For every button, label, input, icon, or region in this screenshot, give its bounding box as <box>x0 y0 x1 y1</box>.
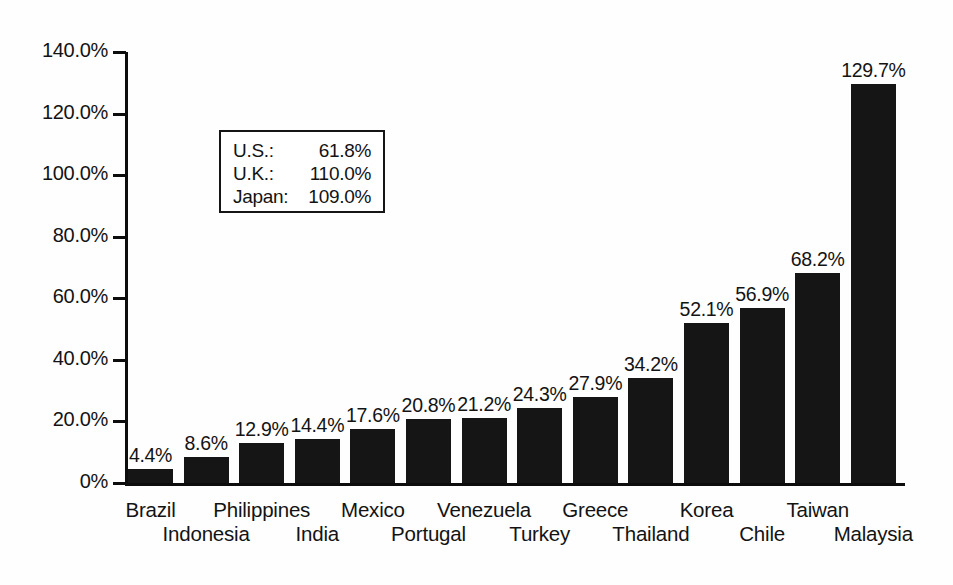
y-axis-tick-label: 120.0% <box>8 101 108 124</box>
bar <box>350 429 395 483</box>
bar <box>573 397 618 483</box>
y-axis-tick-label: 80.0% <box>8 224 108 247</box>
reference-value-row: U.S.:61.8% <box>221 140 383 163</box>
reference-value-amount: 109.0% <box>308 186 371 208</box>
y-axis-line <box>125 52 128 485</box>
y-axis-tick-label: 40.0% <box>8 347 108 370</box>
y-axis-tick-label: 60.0% <box>8 285 108 308</box>
bar <box>239 443 284 483</box>
y-axis-tick-label: 20.0% <box>8 408 108 431</box>
bar <box>628 378 673 483</box>
reference-value-name: U.S.: <box>233 140 274 162</box>
bar <box>517 408 562 483</box>
reference-value-row: Japan:109.0% <box>221 186 383 209</box>
bar-value-label: 129.7% <box>828 59 918 82</box>
reference-values-box: U.S.:61.8%U.K.:110.0%Japan:109.0% <box>219 130 385 213</box>
bar-value-label: 56.9% <box>717 283 807 306</box>
y-axis-tick-label: 100.0% <box>8 162 108 185</box>
bar <box>684 323 729 483</box>
bar <box>184 457 229 483</box>
x-axis-label-malaysia: Malaysia <box>798 522 948 546</box>
bar-value-label: 68.2% <box>773 248 863 271</box>
bar <box>795 273 840 483</box>
bar <box>128 469 173 483</box>
bar <box>295 439 340 483</box>
reference-value-amount: 61.8% <box>319 140 371 162</box>
x-axis-line <box>125 483 905 486</box>
bar <box>462 418 507 483</box>
reference-value-name: U.K.: <box>233 163 274 185</box>
y-axis-tick-label: 0% <box>8 470 108 493</box>
reference-value-row: U.K.:110.0% <box>221 163 383 186</box>
reference-value-amount: 110.0% <box>310 163 371 185</box>
y-axis-tick-label: 140.0% <box>8 39 108 62</box>
bar-chart: 0%20.0%40.0%60.0%80.0%100.0%120.0%140.0%… <box>0 0 953 585</box>
bar-value-label: 34.2% <box>606 353 696 376</box>
bar <box>740 308 785 483</box>
reference-value-name: Japan: <box>233 186 288 208</box>
bar <box>851 84 896 483</box>
x-axis-label-taiwan: Taiwan <box>743 498 893 522</box>
bar <box>406 419 451 483</box>
